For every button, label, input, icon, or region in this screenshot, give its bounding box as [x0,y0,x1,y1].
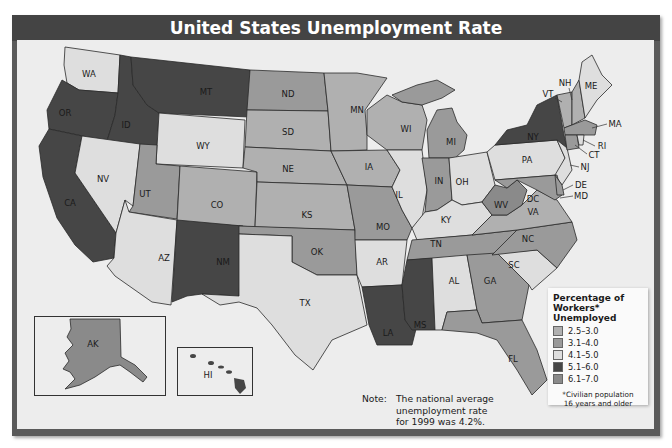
label-ID: ID [121,120,131,130]
state-CT[interactable] [565,135,579,150]
label-AZ: AZ [158,253,170,263]
state-MI[interactable] [427,108,467,158]
label-LA: LA [383,328,394,338]
label-WI: WI [401,124,412,134]
legend-item: 4.1–5.0 [548,349,648,361]
label-WY: WY [196,141,210,151]
label-IA: IA [365,162,374,172]
label-KY: KY [441,215,452,225]
label-OH: OH [455,177,468,187]
label-DC: DC [527,194,540,204]
label-CT: CT [588,150,600,160]
label-HI: HI [204,370,213,380]
label-AL: AL [449,276,460,286]
label-WA: WA [82,69,96,79]
label-NJ: NJ [581,162,590,172]
label-AR: AR [376,257,388,267]
note-label: Note: [362,393,387,405]
legend-item: 6.1–7.0 [548,373,648,385]
state-NM[interactable] [172,220,243,302]
label-DE: DE [575,180,587,190]
alaska-map: AK [35,317,165,395]
label-MO: MO [376,222,390,232]
label-WV: WV [494,200,508,210]
label-PA: PA [522,155,533,165]
label-CA: CA [64,198,76,208]
map-frame: United States Unemployment Rate [12,15,660,436]
hawaii-inset: HI [177,347,253,396]
legend-swatch [553,338,563,348]
label-TN: TN [429,239,442,249]
map-title: United States Unemployment Rate [12,15,660,41]
legend-item: 3.1–4.0 [548,337,648,349]
label-NC: NC [522,234,534,244]
label-UT: UT [139,189,151,199]
state-CO[interactable] [177,166,257,227]
label-VT: VT [542,89,554,99]
label-FL: FL [508,354,518,364]
label-IL: IL [395,190,403,200]
label-ND: ND [282,89,295,99]
legend-swatch [553,362,563,372]
label-SD: SD [282,127,294,137]
state-MI-upper[interactable] [392,80,455,105]
hawaii-map: HI [178,348,252,395]
label-NH: NH [559,78,572,88]
label-IN: IN [435,176,444,186]
label-OR: OR [59,108,72,118]
note-text: The national average unemployment rate f… [396,393,506,428]
label-NE: NE [282,164,294,174]
label-NV: NV [97,174,109,184]
state-AK[interactable] [63,319,147,389]
label-AK: AK [87,339,99,349]
label-VA: VA [527,207,538,217]
legend-swatch [553,326,563,336]
label-MI: MI [446,137,456,147]
legend-title: Percentage of Workers* Unemployed [548,288,648,325]
legend-swatch [553,350,563,360]
label-MT: MT [200,87,213,97]
label-NY: NY [527,132,539,142]
legend-item: 5.1–6.0 [548,361,648,373]
label-SC: SC [508,260,519,270]
alaska-inset: AK [34,316,166,396]
map-area: WA OR CA ID MT NV WY UT CO AZ NM ND SD N… [17,40,654,429]
label-ME: ME [585,81,598,91]
label-NM: NM [216,257,230,267]
label-CO: CO [211,200,224,210]
label-OK: OK [311,247,324,257]
label-TX: TX [298,298,310,308]
label-GA: GA [484,276,497,286]
legend-footnote: *Civilian population 16 years and older [548,390,648,408]
state-FL[interactable] [442,310,547,395]
label-MD: MD [574,191,588,201]
state-KS[interactable] [255,182,355,230]
state-HI[interactable] [190,354,246,394]
label-KS: KS [302,210,313,220]
legend-swatch [553,374,563,384]
legend: Percentage of Workers* Unemployed 2.5–3.… [548,288,648,405]
label-MA: MA [608,119,621,129]
legend-item: 2.5–3.0 [548,325,648,337]
label-MS: MS [414,320,427,330]
label-MN: MN [350,105,364,115]
